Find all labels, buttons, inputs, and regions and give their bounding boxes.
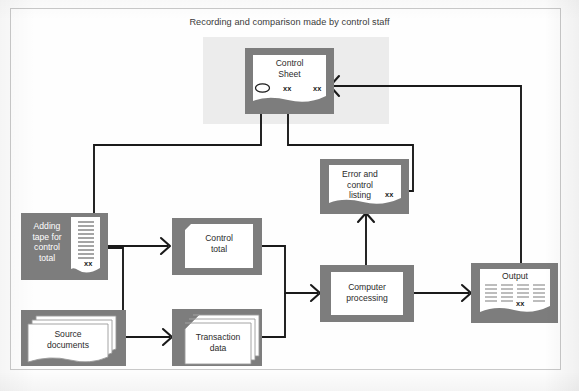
flow-transaction-to-processing: [262, 293, 285, 337]
control-sheet-marker-2: xx: [313, 84, 322, 93]
node-output[interactable]: [471, 263, 558, 323]
node-error-control-listing[interactable]: [320, 159, 409, 214]
flow-adding-tape-to-control-sheet: [94, 98, 261, 237]
node-adding-tape[interactable]: [21, 213, 108, 280]
flow-control-total-to-processing: [262, 246, 318, 293]
source-documents-sheet-1: [28, 324, 108, 362]
output-paper: [480, 269, 550, 312]
node-computer-processing[interactable]: [320, 265, 414, 322]
adding-tape-marker: xx: [84, 259, 93, 268]
diagram-graphics: [0, 0, 579, 391]
node-source-documents[interactable]: [21, 310, 126, 366]
connector-lines: [79, 86, 521, 337]
transaction-data-card-1: [185, 323, 251, 364]
control-sheet-marker-1: xx: [283, 84, 292, 93]
control-sheet-paper: [253, 55, 326, 102]
node-transaction-data[interactable]: [172, 309, 262, 366]
control-total-card: [185, 224, 253, 268]
node-control-total[interactable]: [172, 218, 262, 275]
output-marker: xx: [516, 299, 525, 308]
error-listing-marker: xx: [385, 190, 394, 199]
computer-processing-inner: [331, 272, 403, 315]
diagram-canvas: Recording and comparison made by control…: [0, 0, 579, 391]
node-control-sheet[interactable]: [245, 48, 334, 114]
